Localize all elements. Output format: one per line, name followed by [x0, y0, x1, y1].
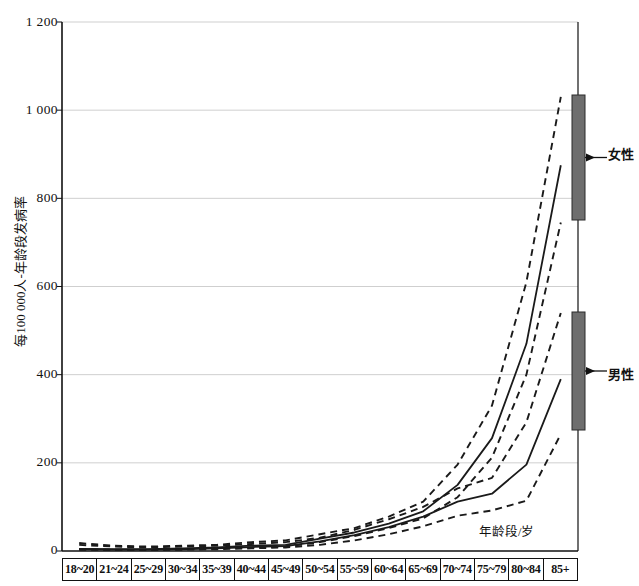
series-line-1	[79, 165, 561, 549]
age-group-cell: 18~20	[63, 559, 97, 581]
incidence-rate-chart-figure: 1 200 1 000 800 600 400 200 0 每100 000人-…	[0, 0, 639, 586]
legend-male-bar	[572, 312, 585, 430]
age-group-cell: 80~84	[509, 559, 543, 581]
x-axis-title: 年龄段/岁	[479, 521, 534, 540]
chart-plot-area	[0, 0, 639, 586]
age-group-cell: 85+	[543, 559, 577, 581]
y-tick-label-1000: 1 000	[6, 102, 58, 118]
age-group-cell: 55~59	[337, 559, 371, 581]
legend-female-arrow-icon	[586, 154, 595, 162]
y-tick-label-1200: 1 200	[6, 14, 58, 30]
legend-label-male: 男性	[608, 364, 634, 383]
age-group-cell: 65~69	[406, 559, 440, 581]
age-group-cell: 25~29	[131, 559, 165, 581]
legend-female-bar	[572, 95, 585, 220]
age-group-cell: 60~64	[371, 559, 405, 581]
legend-male-arrow-icon	[586, 367, 595, 375]
series-line-3	[79, 313, 561, 548]
age-group-cell: 30~34	[165, 559, 199, 581]
age-group-row: 18~2021~2425~2930~3435~3940~4445~4950~54…	[63, 559, 578, 581]
age-group-cell: 40~44	[234, 559, 268, 581]
age-group-cell: 75~79	[474, 559, 508, 581]
age-group-cell: 70~74	[440, 559, 474, 581]
age-group-cell: 45~49	[268, 559, 302, 581]
y-tick-label-200: 200	[6, 454, 58, 470]
age-group-axis-table: 18~2021~2425~2930~3435~3940~4445~4950~54…	[62, 558, 578, 581]
y-axis-title: 每100 000人-年龄段发病率	[10, 157, 29, 387]
age-group-cell: 35~39	[200, 559, 234, 581]
y-tick-label-0: 0	[6, 542, 58, 558]
age-group-cell: 21~24	[97, 559, 131, 581]
legend-label-female: 女性	[608, 144, 634, 163]
age-group-cell: 50~54	[303, 559, 337, 581]
series-line-2	[79, 223, 561, 550]
